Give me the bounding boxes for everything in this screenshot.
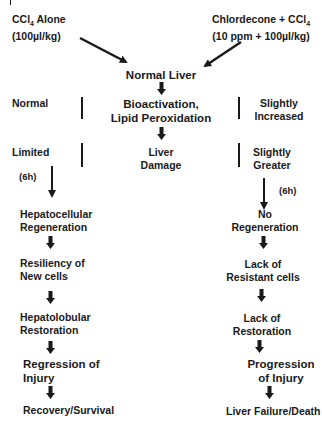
left-step-3: Hepatolobular Restoration: [20, 311, 91, 337]
right-damage-line2: Greater: [253, 159, 290, 171]
left-step-2-line1: Resiliency of: [20, 257, 85, 269]
down-arrow-icon: [46, 236, 55, 249]
left-input-arrow: [80, 38, 126, 62]
down-arrow-icon: [265, 386, 274, 399]
right-bioactivation-line1: Slightly: [260, 97, 298, 109]
liver-damage-label: Liver Damage: [120, 146, 202, 172]
down-arrow-icon: [46, 291, 55, 304]
bioactivation-line2: Lipid Peroxidation: [111, 112, 211, 124]
down-arrow-icon: [46, 386, 55, 399]
left-step-3-line1: Hepatolobular: [20, 311, 91, 323]
down-arrow-icon: [46, 341, 55, 354]
down-arrow-icon: [157, 127, 166, 140]
left-step-1: Hepatocellular Regeneration: [20, 208, 92, 234]
left-step-1-line2: Regeneration: [20, 221, 87, 233]
right-bioactivation-line2: Increased: [254, 110, 303, 122]
left-time-label: (6h): [19, 170, 36, 183]
down-arrow-icon: [157, 82, 166, 95]
right-step-3-line2: Restoration: [233, 325, 291, 337]
right-step-4-line2: of Injury: [258, 372, 303, 384]
down-arrow-icon: [259, 236, 268, 249]
right-damage-level: Slightly Greater: [244, 146, 300, 172]
right-step-1-line1: No: [258, 208, 272, 220]
right-step-2-line2: Resistant cells: [226, 271, 300, 283]
bioactivation-line1: Bioactivation,: [123, 98, 198, 110]
liver-damage-line2: Damage: [141, 159, 182, 171]
right-outcome: Liver Failure/Death: [226, 405, 321, 418]
normal-liver-label: Normal Liver: [110, 68, 212, 82]
bioactivation-label: Bioactivation, Lipid Peroxidation: [100, 97, 222, 125]
right-step-3-line1: Lack of: [244, 312, 281, 324]
left-step-2-line2: New cells: [20, 270, 68, 282]
left-step-2: Resiliency of New cells: [20, 257, 85, 283]
liver-damage-line1: Liver: [148, 146, 173, 158]
left-damage-level: Limited: [12, 146, 49, 159]
left-bioactivation-level: Normal: [12, 97, 48, 110]
right-bioactivation-level: Slightly Increased: [244, 97, 314, 123]
divider-left-1: [81, 97, 83, 119]
down-arrow-icon: [255, 340, 264, 353]
left-outcome: Recovery/Survival: [23, 404, 114, 417]
right-step-4-line1: Progression: [247, 358, 314, 370]
right-step-1: No Regeneration: [220, 208, 310, 234]
divider-right-1: [238, 97, 240, 119]
right-step-2-line1: Lack of: [245, 258, 282, 270]
right-input-arrow: [205, 42, 241, 66]
right-step-4: Progression of Injury: [240, 357, 322, 385]
down-arrow-icon: [257, 289, 266, 302]
divider-right-2: [238, 143, 240, 167]
right-step-3: Lack of Restoration: [220, 312, 304, 338]
left-step-4-line1: Regression of: [23, 358, 100, 370]
right-step-2: Lack of Resistant cells: [215, 258, 311, 284]
right-step-1-line2: Regeneration: [231, 221, 298, 233]
right-damage-line1: Slightly: [253, 146, 291, 158]
left-step-1-line1: Hepatocellular: [20, 208, 92, 220]
right-time-label: (6h): [279, 184, 296, 197]
left-step-3-line2: Restoration: [20, 324, 78, 336]
divider-left-2: [81, 143, 83, 167]
left-step-4-line2: Injury: [23, 372, 54, 384]
left-step-4: Regression of Injury: [23, 357, 100, 385]
